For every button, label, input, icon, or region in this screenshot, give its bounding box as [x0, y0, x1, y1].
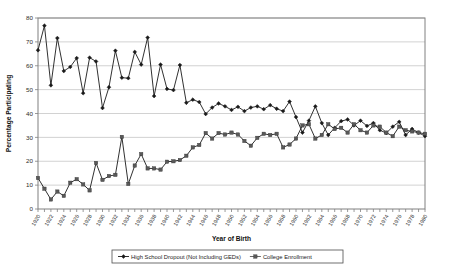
data-point-marker [255, 104, 259, 108]
data-point-marker [191, 98, 195, 102]
data-point-marker [152, 167, 155, 170]
data-point-marker [320, 121, 324, 125]
x-tick-label: 1966 [327, 214, 338, 227]
data-point-marker [94, 60, 98, 64]
data-point-marker [417, 131, 420, 134]
data-point-marker [165, 160, 168, 163]
data-point-marker [120, 76, 124, 80]
data-point-marker [55, 36, 59, 40]
data-point-marker [320, 133, 323, 136]
y-tick-label: 40 [26, 110, 33, 117]
data-point-marker [365, 131, 368, 134]
data-point-marker [185, 154, 188, 157]
data-point-marker [243, 139, 246, 142]
data-point-marker [307, 119, 311, 123]
x-tick-label: 1934 [120, 214, 131, 227]
x-tick-label: 1930 [95, 214, 106, 227]
y-tick-label: 0 [30, 205, 34, 212]
data-point-marker [49, 198, 52, 201]
data-point-marker [391, 134, 394, 137]
data-point-marker [101, 178, 104, 181]
x-tick-label: 1952 [237, 214, 248, 227]
data-point-marker [178, 158, 181, 161]
data-point-marker [94, 161, 97, 164]
data-point-marker [254, 255, 257, 258]
data-point-marker [146, 167, 149, 170]
data-point-marker [256, 136, 259, 139]
data-point-marker [36, 176, 39, 179]
legend-label: College Enrollment [263, 254, 312, 260]
x-tick-label: 1926 [69, 214, 80, 227]
data-point-marker [410, 130, 413, 133]
data-point-marker [423, 132, 426, 135]
data-point-marker [385, 131, 388, 134]
data-point-marker [269, 133, 272, 136]
line-chart: 0102030405060708019201922192419261928193… [0, 0, 453, 271]
x-tick-label: 1946 [198, 214, 209, 227]
data-point-marker [372, 124, 375, 127]
y-tick-label: 20 [26, 157, 33, 164]
x-tick-label: 1974 [378, 214, 389, 227]
data-point-marker [120, 135, 123, 138]
data-point-marker [114, 49, 118, 53]
data-point-marker [133, 164, 136, 167]
data-point-marker [313, 104, 317, 108]
data-point-marker [352, 123, 355, 126]
x-tick-label: 1928 [82, 214, 93, 227]
data-point-marker [262, 132, 265, 135]
x-tick-label: 1956 [262, 214, 273, 227]
x-tick-label: 1922 [43, 214, 54, 227]
data-point-marker [281, 146, 284, 149]
data-point-marker [301, 131, 305, 135]
y-tick-label: 80 [26, 14, 33, 21]
y-tick-label: 10 [26, 181, 33, 188]
data-point-marker [314, 137, 317, 140]
data-point-marker [217, 131, 220, 134]
x-tick-label: 1940 [159, 214, 170, 227]
data-point-marker [294, 137, 297, 140]
data-point-marker [191, 146, 194, 149]
x-tick-label: 1980 [417, 214, 428, 227]
x-tick-label: 1958 [275, 214, 286, 227]
data-point-marker [146, 36, 150, 40]
data-point-marker [301, 124, 304, 127]
data-point-marker [230, 108, 234, 112]
chart-container: 0102030405060708019201922192419261928193… [0, 0, 453, 271]
data-point-marker [62, 194, 65, 197]
data-point-marker [152, 94, 156, 98]
x-tick-label: 1970 [353, 214, 364, 227]
data-point-marker [88, 56, 92, 60]
data-point-marker [327, 123, 330, 126]
data-point-marker [333, 127, 336, 130]
x-tick-label: 1954 [249, 214, 260, 227]
x-tick-label: 1948 [211, 214, 222, 227]
y-axis-title: Percentage Participating [5, 75, 13, 152]
x-tick-label: 1938 [146, 214, 157, 227]
data-point-marker [223, 104, 227, 108]
data-point-marker [165, 87, 169, 91]
data-point-marker [178, 63, 182, 67]
x-tick-label: 1920 [30, 214, 41, 227]
data-point-marker [126, 76, 130, 80]
data-point-marker [172, 160, 175, 163]
data-point-marker [210, 137, 213, 140]
y-tick-label: 50 [26, 86, 33, 93]
data-point-marker [249, 144, 252, 147]
data-point-marker [249, 106, 253, 110]
data-point-marker [275, 107, 279, 111]
data-point-marker [140, 152, 143, 155]
x-tick-label: 1950 [224, 214, 235, 227]
y-tick-label: 30 [26, 134, 33, 141]
x-tick-label: 1944 [185, 214, 196, 227]
data-point-marker [307, 123, 310, 126]
x-tick-label: 1964 [314, 214, 325, 227]
x-tick-label: 1962 [301, 214, 312, 227]
data-point-marker [81, 91, 85, 95]
legend-label: High School Dropout (Not Including GEDs) [131, 254, 241, 260]
data-point-marker [81, 183, 84, 186]
y-tick-label: 60 [26, 62, 33, 69]
data-point-marker [184, 101, 188, 105]
data-point-marker [404, 129, 407, 132]
data-point-marker [43, 24, 47, 28]
data-point-marker [133, 50, 137, 54]
